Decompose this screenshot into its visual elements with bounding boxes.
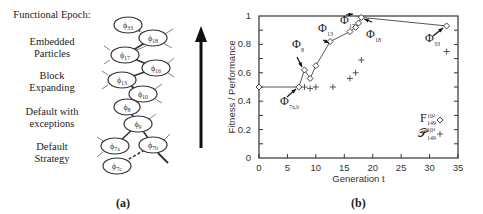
plus-marker	[353, 70, 359, 76]
y-axis-label: Fitness / Performance	[226, 41, 237, 134]
diamond-marker	[358, 14, 364, 20]
x-tick-label: 25	[396, 162, 407, 173]
y-tick-label: 1	[246, 10, 251, 21]
svg-text:Φ: Φ	[292, 37, 301, 51]
svg-text:Φ: Φ	[366, 27, 375, 41]
y-tick-label: 0.4	[238, 95, 251, 106]
svg-text:33: 33	[434, 41, 440, 47]
x-tick-label: 30	[424, 162, 435, 173]
y-tick-label: 0.8	[238, 38, 251, 49]
svg-text:17: 17	[349, 23, 355, 29]
point-annotation: Φ18	[364, 19, 381, 43]
plus-marker	[307, 85, 313, 91]
svg-text:10⁴: 10⁴	[427, 127, 435, 133]
svg-text:7a,b: 7a,b	[289, 104, 299, 110]
x-tick-label: 10	[311, 162, 322, 173]
svg-text:8: 8	[301, 47, 304, 53]
legend-diamond-icon	[437, 117, 443, 123]
x-axis-label: Generation t	[332, 173, 385, 184]
plus-marker	[347, 75, 353, 81]
svg-text:149: 149	[427, 120, 436, 126]
svg-text:18: 18	[375, 37, 381, 43]
y-tick-label: 0.2	[238, 124, 251, 135]
svg-text:F: F	[420, 111, 427, 125]
diamond-marker	[296, 84, 302, 90]
legend: F10⁴149𝒫10⁴149	[418, 111, 443, 141]
y-tick-label: 0.6	[238, 67, 251, 78]
y-tick-label: 0	[246, 152, 251, 163]
point-annotation: Φ17	[340, 13, 355, 29]
diamond-marker	[327, 39, 333, 45]
x-tick-label: 35	[453, 162, 464, 173]
diamond-marker	[313, 63, 319, 69]
fitness-chart: 0510152025303500.20.40.60.81Generation t…	[0, 0, 483, 214]
point-annotation: Φ7a,b	[280, 89, 299, 110]
x-tick-label: 15	[339, 162, 350, 173]
plus-marker	[301, 84, 307, 90]
diamond-marker	[301, 67, 307, 73]
diamond-marker	[256, 84, 262, 90]
plus-marker	[444, 49, 450, 55]
point-annotation: Φ8	[292, 37, 304, 67]
point-annotation: Φ33	[425, 28, 443, 47]
x-tick-label: 5	[285, 162, 290, 173]
plus-marker	[313, 84, 319, 90]
svg-text:Φ: Φ	[318, 21, 327, 35]
arrow-icon	[364, 19, 369, 23]
svg-text:13: 13	[327, 31, 333, 37]
diamond-marker	[444, 23, 450, 29]
svg-text:10⁴: 10⁴	[427, 113, 435, 119]
x-tick-label: 20	[367, 162, 378, 173]
plus-marker	[358, 57, 364, 63]
plus-marker	[330, 84, 336, 90]
x-tick-label: 0	[256, 162, 261, 173]
svg-text:Φ: Φ	[425, 31, 434, 45]
svg-text:149: 149	[427, 135, 436, 141]
legend-plus-icon	[437, 131, 443, 137]
diamond-marker	[307, 75, 313, 81]
